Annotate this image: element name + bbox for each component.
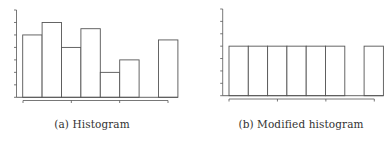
histogram-bar (229, 46, 248, 96)
histogram-bar (287, 46, 306, 96)
modified-histogram-chart (195, 0, 391, 110)
histogram-bar (81, 29, 100, 98)
histogram-bar (159, 40, 178, 97)
caption-histogram: (a) Histogram (54, 118, 130, 130)
histogram-bar (248, 46, 267, 96)
histogram-bar (364, 46, 383, 96)
histogram-bar (62, 47, 81, 97)
histogram-chart (0, 0, 195, 110)
histogram-bar (23, 35, 42, 97)
caption-modified-histogram: (b) Modified histogram (238, 118, 363, 130)
histogram-bar (268, 46, 287, 96)
figure: (a) Histogram (b) Modified histogram (0, 0, 391, 143)
histogram-bar (326, 46, 345, 96)
histogram-bar (100, 72, 119, 97)
histogram-bar (42, 22, 61, 97)
histogram-bar (120, 60, 139, 97)
histogram-bar (306, 46, 325, 96)
